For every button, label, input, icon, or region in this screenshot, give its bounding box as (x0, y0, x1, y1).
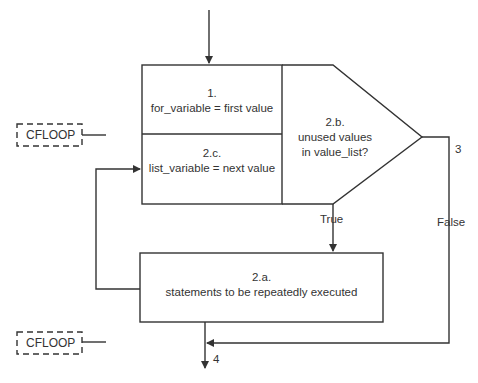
decision-node: 2.b. unused values in value_list? (285, 115, 385, 160)
init-text: for_variable = first value (142, 101, 282, 116)
loop-back-path (96, 169, 140, 289)
end-step-label: 4 (213, 353, 219, 365)
body-node: 2.a. statements to be repeatedly execute… (140, 270, 383, 300)
cfloop-tag-top: CFLOOP (26, 128, 75, 142)
exit-step-label: 3 (455, 143, 461, 155)
body-step: 2.a. (140, 270, 383, 285)
body-text: statements to be repeatedly executed (140, 285, 383, 300)
decision-line1: unused values (285, 130, 385, 145)
init-step: 1. (142, 86, 282, 101)
flowchart-canvas (0, 0, 478, 383)
decision-step: 2.b. (285, 115, 385, 130)
false-label: False (437, 216, 465, 228)
decision-line2: in value_list? (285, 145, 385, 160)
init-node: 1. for_variable = first value (142, 86, 282, 116)
true-label: True (320, 213, 343, 225)
next-node: 2.c. list_variable = next value (142, 146, 282, 176)
next-step: 2.c. (142, 146, 282, 161)
cfloop-tag-bottom: CFLOOP (26, 336, 75, 350)
next-text: list_variable = next value (142, 161, 282, 176)
